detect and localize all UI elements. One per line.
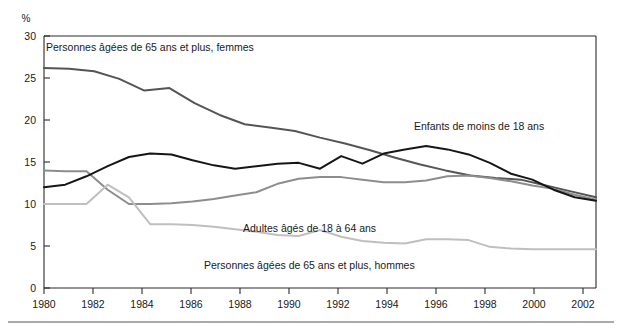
x-tick-label-1998: 1998 xyxy=(473,298,497,310)
y-tick-label-30: 30 xyxy=(24,30,36,42)
x-tick-label-1986: 1986 xyxy=(179,298,203,310)
y-axis-unit-label: % xyxy=(22,13,31,24)
y-tick-label-5: 5 xyxy=(30,240,36,252)
x-tick-label-1996: 1996 xyxy=(424,298,448,310)
x-tick-label-1990: 1990 xyxy=(277,298,301,310)
annotation-children-under-18: Enfants de moins de 18 ans xyxy=(414,120,544,132)
y-tick-label-20: 20 xyxy=(24,114,36,126)
y-tick-label-10: 10 xyxy=(24,198,36,210)
y-tick-label-0: 0 xyxy=(30,282,36,294)
x-tick-label-1982: 1982 xyxy=(81,298,105,310)
annotation-elderly-women: Personnes âgées de 65 ans et plus, femme… xyxy=(46,41,254,53)
annotation-elderly-men: Personnes âgées de 65 ans et plus, homme… xyxy=(204,259,415,271)
x-tick-label-1992: 1992 xyxy=(326,298,350,310)
line-chart: % 0 5 10 15 20 25 30 xyxy=(0,0,622,336)
x-tick-label-1994: 1994 xyxy=(375,298,399,310)
y-tick-label-15: 15 xyxy=(24,156,36,168)
x-tick-label-2000: 2000 xyxy=(522,298,546,310)
annotation-adults-18-64: Adultes âgés de 18 à 64 ans xyxy=(243,222,376,234)
chart-figure: % 0 5 10 15 20 25 30 xyxy=(0,0,622,336)
x-tick-label-1988: 1988 xyxy=(228,298,252,310)
x-tick-label-1984: 1984 xyxy=(130,298,154,310)
x-tick-label-2002: 2002 xyxy=(571,298,595,310)
y-tick-label-25: 25 xyxy=(24,72,36,84)
x-tick-label-1980: 1980 xyxy=(32,298,56,310)
